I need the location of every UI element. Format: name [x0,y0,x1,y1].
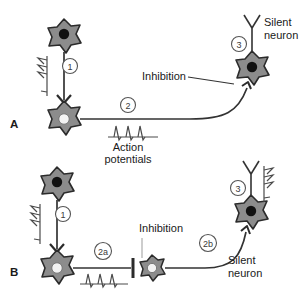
panel-a-marker-3: 3 [232,37,247,52]
panel-a: A 1 [10,15,298,165]
panel-a-neuron-2-nucleus [59,114,69,124]
panel-a-neuron-3 [236,51,269,85]
panel-a-marker-2: 2 [121,98,136,113]
panel-b-marker-2a-text: 2a [98,247,108,257]
panel-a-neuron-2-axon [80,88,247,119]
panel-a-label: A [10,118,18,130]
neuron-inhibition-figure: A 1 [0,0,307,293]
panel-b-label: B [10,266,18,278]
panel-b-neuron-1 [41,167,74,201]
panel-a-inhibition-label: Inhibition [142,70,186,82]
panel-b-trace-vertical-3 [264,166,273,202]
panel-a-marker-3-text: 3 [236,40,241,50]
panel-b-interneuron [140,255,165,281]
panel-a-neuron-2 [48,101,81,135]
panel-a-neuron-1-nucleus [59,29,69,39]
panel-a-trace-vertical-1 [38,56,47,96]
panel-b-interneuron-nucleus [147,263,156,272]
panel-a-silent-neuron-label-line2: neuron [264,29,298,41]
figure-canvas: A 1 [0,0,307,293]
panel-b-marker-3-text: 3 [235,184,240,194]
panel-a-neuron-3-nucleus [247,62,257,72]
panel-a-neuron-1 [48,19,81,53]
panel-a-action-potentials-label-line2: potentials [104,153,152,165]
panel-b-neuron-2 [41,250,74,284]
panel-b-marker-1-text: 1 [60,210,65,220]
panel-b-inhibition-label: Inhibition [139,222,183,234]
panel-b-marker-1: 1 [56,207,71,222]
panel-a-trace-action-potentials [108,126,158,140]
panel-b-neuron-3-nucleus [246,206,256,216]
panel-b-neuron-2-nucleus [52,263,62,273]
panel-b-neuron-3 [235,195,268,229]
panel-b-trace-vertical-1 [31,204,40,244]
panel-a-silent-neuron-label-line1: Silent [264,16,292,28]
panel-b-neuron-1-nucleus [52,177,62,187]
panel-a-marker-1-text: 1 [67,62,72,72]
panel-b-silent-neuron-label-line1: Silent [228,254,256,266]
panel-a-action-potentials-label-line1: Action [113,141,144,153]
panel-a-inhibition-leader [188,77,234,84]
panel-b-silent-neuron-label-line2: neuron [228,267,262,279]
panel-a-marker-2-text: 2 [125,101,130,111]
panel-b-marker-3: 3 [231,181,246,196]
panel-b-trace-action-potentials [80,274,128,287]
panel-b: B 1 [10,161,273,287]
panel-b-marker-2a: 2a [95,243,112,260]
panel-b-marker-2b-text: 2b [203,239,213,249]
panel-a-marker-1: 1 [63,59,78,74]
panel-b-marker-2b: 2b [200,235,217,252]
